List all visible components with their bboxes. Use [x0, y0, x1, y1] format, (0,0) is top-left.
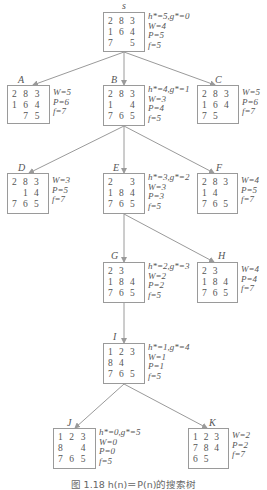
tile: 3	[223, 177, 234, 188]
tile: 1	[193, 432, 204, 443]
board-row: 14	[108, 100, 141, 111]
node-label: B	[111, 75, 117, 85]
blank-tile	[69, 443, 80, 454]
board-row: 164	[108, 27, 141, 38]
tree-edges	[0, 0, 267, 490]
node-stats: h*=4,g*=1W=3P=4f=5	[148, 85, 189, 123]
tile: 8	[213, 177, 224, 188]
board-row: 75	[202, 111, 235, 122]
puzzle-board: 28314765	[7, 173, 49, 214]
puzzle-board: 28316475	[7, 85, 50, 124]
stat-line: f=5	[148, 202, 189, 212]
blank-tile	[119, 38, 130, 49]
stat-line: f=5	[99, 457, 140, 467]
board-row: 23	[108, 266, 141, 277]
board-row: 164	[202, 100, 235, 111]
node-stats: W=5P=6f=7	[242, 88, 260, 117]
stat-line: f=7	[52, 195, 70, 205]
board-row: 65	[193, 454, 225, 465]
tile: 1	[202, 100, 213, 111]
tile: 6	[119, 27, 130, 38]
tile: 2	[119, 347, 130, 358]
tile: 7	[108, 288, 119, 299]
board-row: 765	[202, 288, 234, 299]
board-row: 123	[108, 347, 141, 358]
board-row: 23	[202, 266, 234, 277]
node-stats: h*=0,g*=5W=0P=0f=5	[99, 428, 140, 466]
tile: 4	[35, 100, 46, 111]
tile: 1	[202, 277, 213, 288]
puzzle-board: 28314765	[197, 173, 238, 214]
board-row: 765	[12, 199, 45, 210]
tile: 7	[108, 369, 119, 380]
board-row: 184	[108, 188, 141, 199]
tile: 4	[130, 188, 141, 199]
board-row: 184	[108, 277, 141, 288]
board-row: 765	[108, 199, 141, 210]
tile: 8	[119, 16, 130, 27]
tile: 2	[108, 89, 119, 100]
tile: 2	[108, 177, 119, 188]
tile: 3	[130, 16, 141, 27]
puzzle-board: 12378465	[188, 428, 229, 469]
tile: 2	[204, 432, 215, 443]
blank-tile	[12, 188, 23, 199]
tile: 1	[23, 188, 34, 199]
tile: 6	[213, 100, 224, 111]
tile: 5	[130, 111, 141, 122]
node-label: D	[18, 163, 25, 173]
node-label: C	[215, 75, 222, 85]
tile: 4	[214, 443, 225, 454]
node-stats: W=2P=2f=7	[232, 431, 250, 460]
tile: 2	[12, 89, 23, 100]
tile: 4	[130, 277, 141, 288]
blank-tile	[224, 111, 235, 122]
tile: 6	[119, 199, 130, 210]
board-row: 23	[108, 177, 141, 188]
stat-line: f=5	[148, 41, 189, 51]
tile: 2	[12, 177, 23, 188]
board-row: 84	[58, 443, 92, 454]
stat-line: f=5	[148, 291, 189, 301]
blank-tile	[12, 111, 23, 122]
tile: 7	[202, 199, 213, 210]
tile: 2	[202, 177, 213, 188]
tile: 2	[108, 16, 119, 27]
tile: 2	[202, 89, 213, 100]
tile: 8	[204, 443, 215, 454]
blank-tile	[223, 188, 234, 199]
tile: 5	[130, 199, 141, 210]
board-row: 283	[12, 177, 45, 188]
node-stats: h*=1,g*=4W=1P=1f=5	[148, 343, 189, 381]
tile: 3	[119, 266, 130, 277]
stat-line: f=7	[232, 450, 250, 460]
edge-i-k	[124, 384, 207, 428]
tile: 6	[119, 288, 130, 299]
node-label: H	[218, 251, 225, 261]
tile: 6	[23, 100, 34, 111]
tile: 4	[213, 188, 224, 199]
tile: 3	[213, 266, 224, 277]
figure-caption: 图 1.18 h(n)＝P(n)的搜索树	[0, 477, 267, 490]
board-row: 123	[58, 432, 92, 443]
puzzle-board: 28316475	[103, 12, 145, 52]
board-row: 784	[193, 443, 225, 454]
tile: 6	[193, 454, 204, 465]
puzzle-board: 28314765	[103, 85, 145, 126]
tile: 7	[202, 288, 213, 299]
node-label: J	[67, 418, 71, 428]
tile: 5	[204, 454, 215, 465]
edge-s-c	[124, 52, 215, 85]
tile: 3	[35, 89, 46, 100]
puzzle-board: 12384765	[53, 428, 96, 469]
stat-line: f=7	[242, 107, 260, 117]
stat-line: f=5	[148, 372, 189, 382]
tile: 6	[213, 199, 224, 210]
tile: 3	[224, 89, 235, 100]
tile: 2	[202, 266, 213, 277]
tile: 8	[119, 188, 130, 199]
tile: 1	[108, 100, 119, 111]
tile: 3	[214, 432, 225, 443]
tile: 4	[223, 277, 234, 288]
tile: 4	[130, 100, 141, 111]
